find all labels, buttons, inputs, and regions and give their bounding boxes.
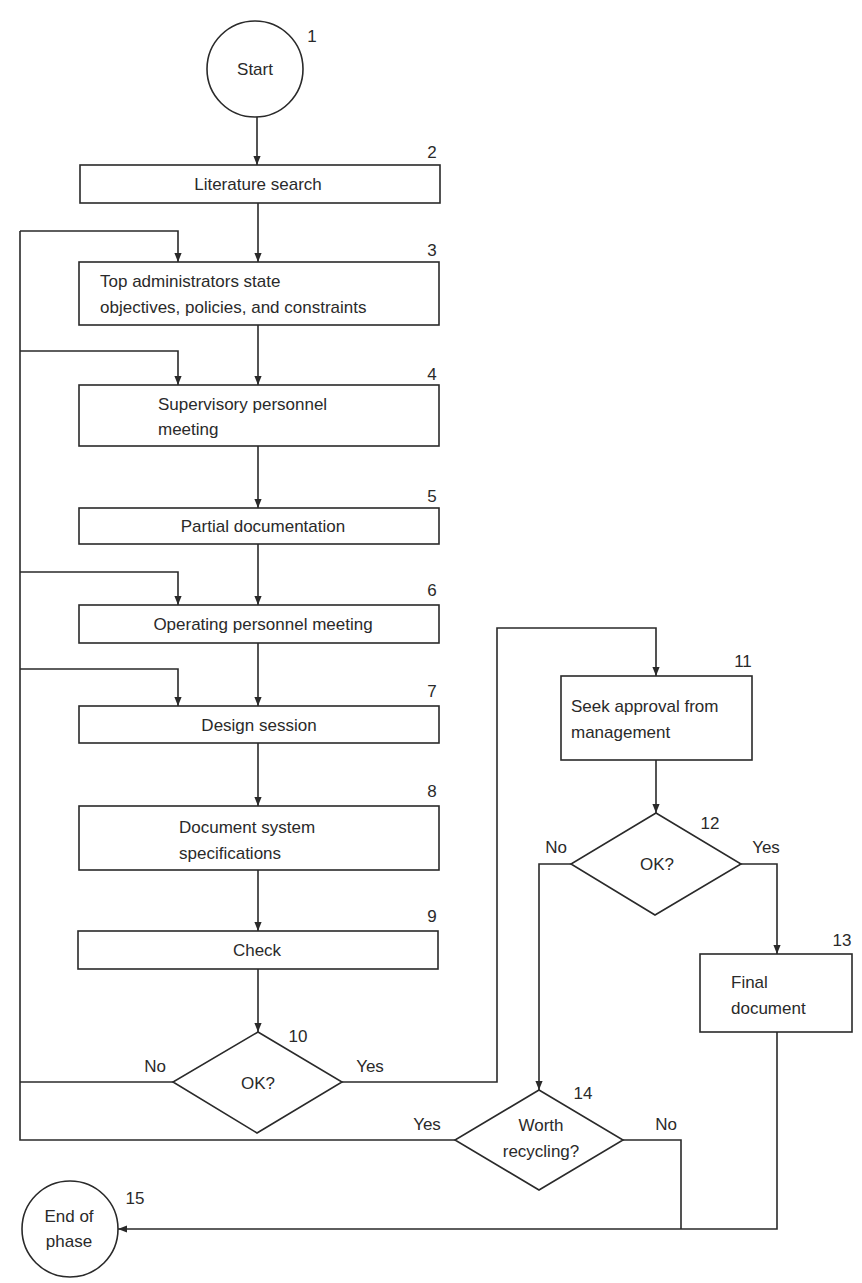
node-label-line2: phase <box>46 1232 92 1251</box>
node-final-document: Final document 13 <box>700 931 852 1032</box>
node-number: 1 <box>307 27 316 46</box>
decision-diamond <box>455 1090 623 1190</box>
end-circle <box>22 1181 118 1277</box>
node-design-session: Design session 7 <box>79 682 439 743</box>
node-number: 6 <box>427 581 436 600</box>
node-label: Operating personnel meeting <box>153 615 372 634</box>
node-label: OK? <box>640 855 674 874</box>
node-label: OK? <box>241 1074 275 1093</box>
node-label: Partial documentation <box>181 517 345 536</box>
node-document-specs: Document system specifications 8 <box>79 782 439 870</box>
branch-label-yes: Yes <box>752 838 780 857</box>
feedback-trunk <box>20 231 455 1140</box>
node-label-line1: End of <box>44 1207 93 1226</box>
node-label-line1: Final <box>731 973 768 992</box>
node-number: 14 <box>574 1084 593 1103</box>
node-label-line1: Supervisory personnel <box>158 395 327 414</box>
flowchart: Start 1 Literature search 2 Top administ… <box>0 0 862 1283</box>
node-label-line1: Top administrators state <box>100 272 280 291</box>
branch-label-no: No <box>144 1057 166 1076</box>
branch-label-no: No <box>655 1115 677 1134</box>
branch-label-yes: Yes <box>356 1057 384 1076</box>
node-label-line2: objectives, policies, and constraints <box>100 298 366 317</box>
node-label: Start <box>237 60 273 79</box>
node-label-line2: specifications <box>179 844 281 863</box>
node-number: 10 <box>289 1027 308 1046</box>
edge-12-13 <box>741 864 777 954</box>
process-box <box>700 954 852 1032</box>
node-label-line1: Seek approval from <box>571 697 718 716</box>
node-number: 3 <box>427 241 436 260</box>
node-partial-documentation: Partial documentation 5 <box>79 487 439 544</box>
branch-label-yes: Yes <box>413 1115 441 1134</box>
node-number: 2 <box>427 143 436 162</box>
node-top-administrators: Top administrators state objectives, pol… <box>79 241 439 325</box>
node-label-line2: document <box>731 999 806 1018</box>
node-decision-worth-recycling: Worth recycling? 14 Yes No <box>413 1084 677 1190</box>
node-number: 7 <box>427 682 436 701</box>
node-label: Design session <box>201 716 316 735</box>
node-label-line1: Worth <box>518 1116 563 1135</box>
feedback-to-6 <box>20 572 178 605</box>
node-label-line2: management <box>571 723 671 742</box>
node-literature-search: Literature search 2 <box>80 143 440 203</box>
process-box <box>561 676 752 760</box>
feedback-to-7 <box>20 669 178 706</box>
node-supervisory-meeting: Supervisory personnel meeting 4 <box>79 365 439 446</box>
node-operating-meeting: Operating personnel meeting 6 <box>79 581 439 643</box>
edge-14-no <box>623 1140 681 1229</box>
node-number: 9 <box>427 907 436 926</box>
node-decision-ok-1: OK? 10 No Yes <box>144 1027 384 1133</box>
edge-12-14 <box>539 864 571 1090</box>
node-label: Check <box>233 941 282 960</box>
node-number: 13 <box>833 931 852 950</box>
node-number: 15 <box>126 1189 145 1208</box>
node-label: Literature search <box>194 175 322 194</box>
node-label-line1: Document system <box>179 818 315 837</box>
node-number: 12 <box>701 814 720 833</box>
feedback-to-4 <box>20 351 178 385</box>
branch-label-no: No <box>545 838 567 857</box>
node-start: Start 1 <box>207 21 317 117</box>
node-number: 4 <box>427 365 436 384</box>
node-label-line2: meeting <box>158 420 218 439</box>
node-number: 11 <box>734 652 752 671</box>
feedback-to-3 <box>20 231 178 262</box>
node-number: 5 <box>427 487 436 506</box>
node-number: 8 <box>427 782 436 801</box>
node-label-line2: recycling? <box>503 1142 580 1161</box>
